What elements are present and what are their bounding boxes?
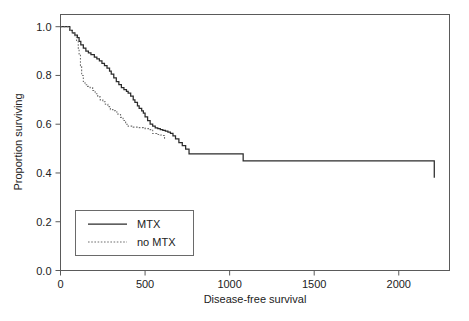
chart-legend: MTX no MTX bbox=[76, 211, 194, 256]
survival-curve-figure: 0.00.20.40.60.81.0 0500100015002000 Dise… bbox=[0, 0, 469, 321]
y-tick-label: 0.0 bbox=[36, 265, 51, 277]
x-axis-ticks bbox=[61, 271, 399, 276]
x-axis-tick-labels: 0500100015002000 bbox=[57, 278, 411, 290]
chart-canvas: 0.00.20.40.60.81.0 0500100015002000 Dise… bbox=[0, 0, 469, 321]
y-tick-label: 1.0 bbox=[36, 21, 51, 33]
y-tick-label: 0.8 bbox=[36, 69, 51, 81]
y-axis-tick-labels: 0.00.20.40.60.81.0 bbox=[36, 21, 51, 277]
y-tick-label: 0.4 bbox=[36, 167, 51, 179]
legend-label-mtx: MTX bbox=[137, 218, 161, 230]
y-axis-ticks bbox=[56, 27, 61, 271]
x-axis-title: Disease-free survival bbox=[204, 293, 307, 305]
legend-box bbox=[76, 211, 194, 256]
y-axis-title: Proportion surviving bbox=[12, 93, 24, 190]
data-series-group bbox=[61, 27, 435, 178]
x-tick-label: 0 bbox=[57, 278, 63, 290]
y-tick-label: 0.6 bbox=[36, 118, 51, 130]
x-tick-label: 1500 bbox=[302, 278, 326, 290]
x-tick-label: 1000 bbox=[217, 278, 241, 290]
legend-label-no-mtx: no MTX bbox=[137, 236, 176, 248]
series-line-mtx bbox=[61, 27, 435, 178]
y-tick-label: 0.2 bbox=[36, 216, 51, 228]
x-tick-label: 2000 bbox=[387, 278, 411, 290]
x-tick-label: 500 bbox=[136, 278, 154, 290]
